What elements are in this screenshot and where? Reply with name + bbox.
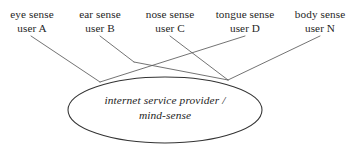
leader-line-body	[228, 36, 320, 80]
sense-label-eye: eye sense user A	[0, 8, 64, 35]
hub-label-line1: internet service provider /	[65, 93, 265, 108]
sense-label-tongue-sense: tongue sense	[206, 8, 284, 22]
sense-label-nose-sense: nose sense	[136, 8, 204, 22]
diagram-canvas: eye sense user A ear sense user B nose s…	[0, 0, 358, 154]
sense-label-eye-sense: eye sense	[0, 8, 64, 22]
leader-lines	[31, 36, 320, 82]
leader-line-ear	[100, 36, 134, 62]
sense-label-ear: ear sense user B	[68, 8, 132, 35]
sense-label-ear-user: user B	[68, 22, 132, 36]
hub-label: internet service provider / mind-sense	[65, 93, 265, 123]
sense-label-tongue-user: user D	[206, 22, 284, 36]
sense-label-body-user: user N	[286, 22, 354, 36]
leader-line-tongue	[100, 36, 245, 82]
leader-line-nose	[170, 36, 228, 80]
hub-label-line2: mind-sense	[65, 108, 265, 123]
sense-label-ear-sense: ear sense	[68, 8, 132, 22]
sense-label-body-sense: body sense	[286, 8, 354, 22]
sense-label-eye-user: user A	[0, 22, 64, 36]
sense-label-body: body sense user N	[286, 8, 354, 35]
leader-line-eye	[31, 36, 100, 82]
sense-label-nose: nose sense user C	[136, 8, 204, 35]
sense-label-nose-user: user C	[136, 22, 204, 36]
sense-label-tongue: tongue sense user D	[206, 8, 284, 35]
